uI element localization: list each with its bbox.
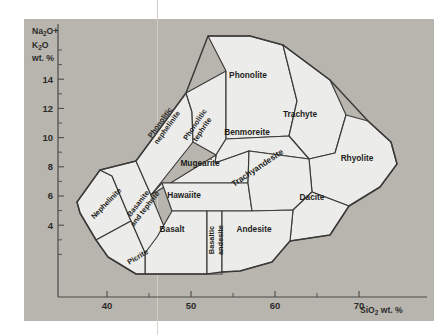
tas-field-label-basaltic-andesite: Basalticandesite: [207, 225, 225, 255]
y-tick-label-8: 8: [48, 161, 53, 172]
tas-field-andesite: [222, 210, 293, 272]
y-tick-label-10: 10: [42, 132, 53, 143]
y-tick-label-4: 4: [48, 220, 54, 231]
y-tick-label-14: 14: [42, 74, 53, 85]
tas-field-label-mugearite: Mugearite: [180, 158, 220, 168]
x-tick-label-50: 50: [186, 300, 197, 311]
tas-field-label-rhyolite: Rhyolite: [341, 153, 374, 163]
tas-field-label-dacite: Dacite: [300, 192, 325, 202]
x-tick-label-40: 40: [102, 300, 113, 311]
tas-field-label-basalt: Basalt: [160, 224, 185, 234]
tas-field-label-andesite: Andesite: [236, 224, 271, 234]
tas-diagram: 46810121440506070 NepheliniteBasaniteand…: [0, 0, 434, 335]
y-tick-label-6: 6: [48, 190, 53, 201]
tas-field-label-phonolite: Phonolite: [229, 70, 267, 80]
tas-field-label-trachyte: Trachyte: [283, 109, 318, 119]
tas-field-label-benmoreite: Benmoreite: [224, 127, 270, 137]
x-tick-label-60: 60: [270, 300, 281, 311]
y-axis-title: Na2O+ K2O wt. %: [32, 26, 58, 64]
x-axis-title: SiO2 wt. %: [360, 299, 403, 317]
figure-page: 46810121440506070 NepheliniteBasaniteand…: [0, 0, 434, 335]
tas-field-label-hawaiite: Hawaiite: [167, 190, 201, 200]
y-tick-label-12: 12: [42, 103, 53, 114]
